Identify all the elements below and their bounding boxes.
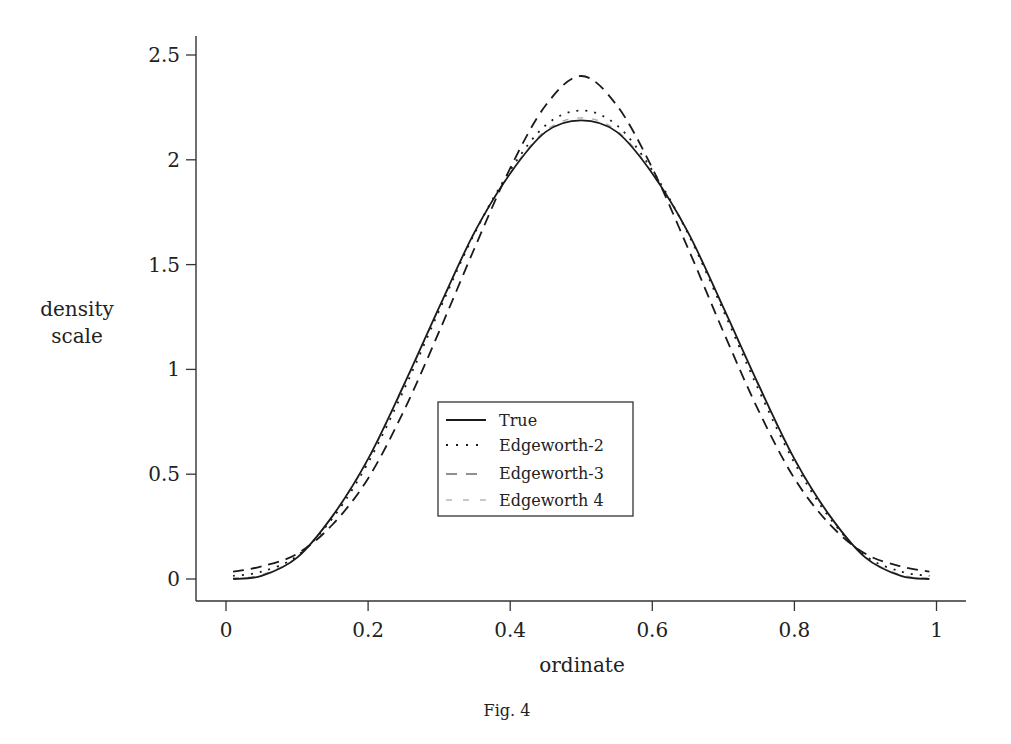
x-tick-label: 0.2 xyxy=(352,618,384,642)
figure-caption: Fig. 4 xyxy=(484,701,531,720)
y-tick-label: 1 xyxy=(167,357,180,381)
x-tick-label: 0.6 xyxy=(636,618,668,642)
legend-label-edgeworth-3: Edgeworth-3 xyxy=(499,464,604,483)
y-axis-label-line2: scale xyxy=(51,324,103,348)
legend-label-true: True xyxy=(499,411,537,430)
legend-label-edgeworth-4: Edgeworth 4 xyxy=(499,491,604,510)
y-tick-label: 0 xyxy=(167,567,180,591)
x-tick-label: 1 xyxy=(930,618,943,642)
y-tick-label: 2 xyxy=(167,148,180,172)
x-axis-label: ordinate xyxy=(539,653,624,677)
x-tick-label: 0.8 xyxy=(778,618,810,642)
y-tick-label: 1.5 xyxy=(148,253,180,277)
legend: True Edgeworth-2 Edgeworth-3 Edgeworth 4 xyxy=(438,402,633,516)
axes: 00.511.522.5 00.20.40.60.81 xyxy=(148,36,966,642)
y-ticks: 00.511.522.5 xyxy=(148,43,196,591)
x-tick-label: 0 xyxy=(220,618,233,642)
x-tick-label: 0.4 xyxy=(494,618,526,642)
legend-label-edgeworth-2: Edgeworth-2 xyxy=(499,436,604,455)
x-ticks: 00.20.40.60.81 xyxy=(220,601,943,642)
density-chart: 00.511.522.5 00.20.40.60.81 density scal… xyxy=(0,0,1011,744)
y-axis-label-line1: density xyxy=(40,297,114,321)
y-tick-label: 2.5 xyxy=(148,43,180,67)
y-tick-label: 0.5 xyxy=(148,462,180,486)
